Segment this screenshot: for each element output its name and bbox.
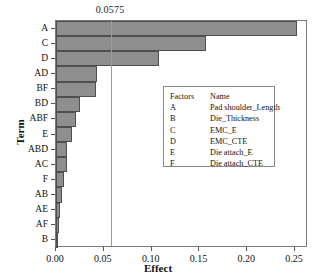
- legend-factor-key: A: [170, 103, 210, 112]
- y-tick-label-E: E: [42, 129, 48, 139]
- legend-header-name: Name: [210, 92, 230, 101]
- y-tick-label-D: D: [41, 53, 48, 63]
- bar-A: [56, 21, 297, 36]
- y-tick-mark: [51, 164, 55, 165]
- factors-legend: Factors Name APad shoulder_LengthBDie_Th…: [163, 86, 275, 167]
- y-tick-label-A: A: [41, 23, 48, 33]
- x-tick-mark: [294, 247, 295, 251]
- bar-AB: [56, 187, 62, 202]
- y-tick-label-AE: AE: [35, 204, 48, 214]
- legend-header-factors: Factors: [170, 92, 210, 101]
- y-tick-mark: [51, 209, 55, 210]
- bar-D: [56, 51, 159, 66]
- x-tick-mark: [151, 247, 152, 251]
- bar-B: [56, 233, 58, 248]
- y-tick-mark: [51, 28, 55, 29]
- y-tick-mark: [51, 224, 55, 225]
- x-axis-title: Effect: [0, 262, 316, 274]
- legend-row-F: FDie attach_CTE: [164, 158, 274, 169]
- bar-E: [56, 127, 72, 142]
- y-tick-label-AC: AC: [35, 159, 48, 169]
- legend-factor-key: D: [170, 137, 210, 146]
- legend-factor-name: Die attach_E: [210, 148, 253, 157]
- y-tick-mark: [51, 43, 55, 44]
- legend-factor-key: E: [170, 148, 210, 157]
- y-axis-title: Term: [14, 102, 26, 162]
- bar-AC: [56, 157, 67, 172]
- bar-F: [56, 172, 64, 187]
- pareto-chart: 0.0575 ACDADBFBDABFEABDACFABAEAFB 0.000.…: [0, 0, 316, 280]
- y-tick-label-ABD: ABD: [28, 144, 48, 154]
- y-tick-mark: [51, 239, 55, 240]
- bar-AE: [56, 203, 60, 218]
- y-tick-mark: [51, 88, 55, 89]
- y-tick-label-BD: BD: [35, 98, 48, 108]
- reference-line: [111, 21, 112, 246]
- legend-factor-name: Die_Thickness: [210, 114, 259, 123]
- x-tick-mark: [246, 247, 247, 251]
- legend-row-B: BDie_Thickness: [164, 113, 274, 124]
- y-tick-mark: [51, 103, 55, 104]
- legend-header-row: Factors Name: [164, 91, 274, 102]
- bar-AF: [56, 218, 59, 233]
- bar-BD: [56, 97, 80, 112]
- legend-row-E: EDie attach_E: [164, 147, 274, 158]
- x-tick-mark: [198, 247, 199, 251]
- bar-ABD: [56, 142, 67, 157]
- y-tick-label-C: C: [42, 38, 48, 48]
- y-tick-label-AD: AD: [34, 68, 48, 78]
- y-tick-label-AB: AB: [35, 189, 48, 199]
- legend-row-C: CEMC_E: [164, 125, 274, 136]
- legend-row-A: APad shoulder_Length: [164, 102, 274, 113]
- bar-C: [56, 36, 206, 51]
- legend-row-D: DEMC_CTE: [164, 136, 274, 147]
- legend-factor-key: F: [170, 159, 210, 168]
- y-tick-mark: [51, 194, 55, 195]
- reference-line-label: 0.0575: [96, 4, 125, 15]
- y-tick-mark: [51, 134, 55, 135]
- y-tick-label-F: F: [43, 174, 48, 184]
- x-tick-mark: [55, 247, 56, 251]
- y-tick-label-B: B: [42, 234, 48, 244]
- bar-AD: [56, 66, 97, 81]
- bar-BF: [56, 82, 96, 97]
- y-tick-mark: [51, 179, 55, 180]
- legend-factor-key: B: [170, 114, 210, 123]
- y-tick-label-ABF: ABF: [30, 113, 48, 123]
- legend-factor-name: Pad shoulder_Length: [210, 103, 280, 112]
- y-tick-mark: [51, 149, 55, 150]
- legend-factor-key: C: [170, 126, 210, 135]
- y-tick-mark: [51, 73, 55, 74]
- y-tick-mark: [51, 118, 55, 119]
- legend-factor-name: Die attach_CTE: [210, 159, 263, 168]
- bar-ABF: [56, 112, 76, 127]
- x-tick-mark: [103, 247, 104, 251]
- y-tick-label-BF: BF: [36, 83, 48, 93]
- legend-factor-name: EMC_CTE: [210, 137, 247, 146]
- y-tick-mark: [51, 58, 55, 59]
- legend-factor-name: EMC_E: [210, 126, 237, 135]
- y-tick-label-AF: AF: [36, 219, 48, 229]
